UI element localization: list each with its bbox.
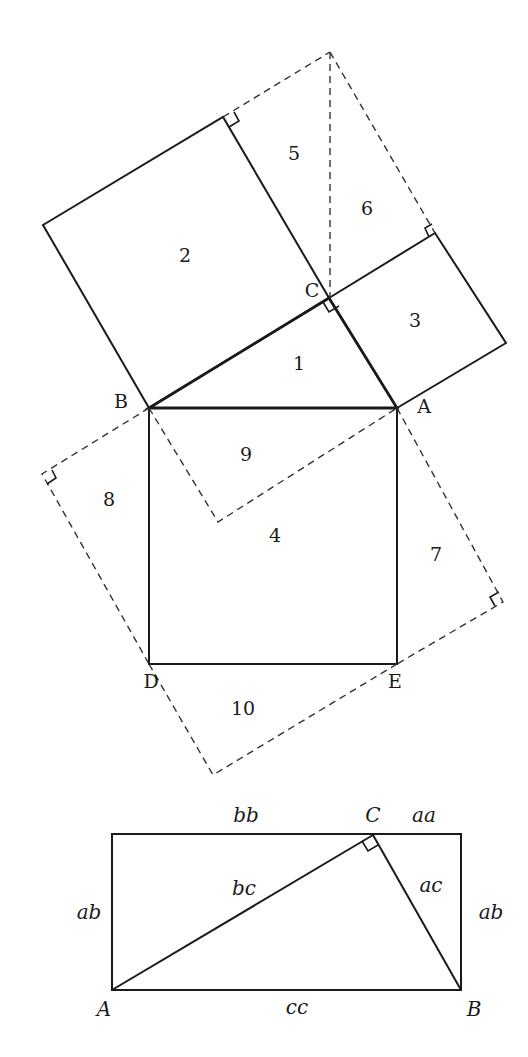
label-aa: aa: [412, 803, 436, 827]
region-label-3: 3: [409, 309, 421, 331]
side-cb: [373, 835, 461, 990]
figure-1-squares: [42, 52, 506, 775]
figure-1-labels: 2 5 6 3 1 9 8 4 7 10 C B A D E: [103, 142, 442, 719]
label-bc: bc: [232, 876, 256, 900]
label-ab-left: ab: [77, 900, 102, 924]
label-bb: bb: [233, 803, 259, 827]
dashed-region-10: [149, 664, 397, 775]
vertex-label-b2: B: [466, 997, 482, 1021]
dashed-region-9: [149, 408, 397, 522]
region-label-2: 2: [179, 244, 191, 266]
hypotenuse-ac: [112, 835, 373, 990]
region-label-9: 9: [240, 443, 252, 465]
label-ab-right: ab: [479, 900, 504, 924]
right-angle-mark-left: [47, 470, 56, 484]
vertex-label-c: C: [305, 279, 320, 301]
region-label-8: 8: [103, 488, 115, 510]
vertex-label-e: E: [388, 670, 402, 692]
vertex-label-a2: A: [95, 997, 111, 1021]
region-label-1: 1: [293, 352, 305, 374]
dashed-region-8: [42, 408, 149, 664]
region-label-7: 7: [430, 543, 442, 565]
pythagorean-dissection-diagram: 2 5 6 3 1 9 8 4 7 10 C B A D E bb C aa a…: [0, 0, 528, 1057]
dashed-top-right: [330, 52, 435, 233]
region-label-4: 4: [269, 524, 281, 546]
dashed-region-7: [397, 408, 503, 664]
right-angle-mark-c2: [362, 841, 378, 851]
right-angle-mark-top-left: [229, 112, 239, 127]
dashed-top-left: [223, 52, 330, 117]
triangle-1: [149, 298, 397, 408]
region-label-6: 6: [361, 197, 373, 219]
region-label-10: 10: [231, 697, 255, 719]
vertex-label-d: D: [143, 670, 158, 692]
vertex-label-b: B: [114, 390, 128, 412]
outer-rectangle: [112, 834, 461, 990]
label-ac: ac: [419, 873, 442, 897]
region-label-5: 5: [288, 142, 300, 164]
label-cc: cc: [286, 995, 308, 1019]
right-angle-mark-right: [490, 592, 499, 606]
figure-2-labels: bb C aa ab ab bc ac cc A B: [77, 803, 504, 1021]
figure-2-rectangle: [112, 834, 461, 990]
vertex-label-c2: C: [365, 803, 380, 827]
vertex-label-a: A: [416, 395, 431, 417]
